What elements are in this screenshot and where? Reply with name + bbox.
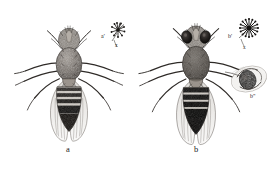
- callout-marker-b-prime: x: [243, 45, 246, 50]
- figure-caption-a: a: [66, 145, 70, 154]
- illustration-plate: [0, 0, 277, 169]
- figure-a-fly: [15, 26, 124, 141]
- figure-b-thorax-shade: [183, 46, 210, 81]
- figure-caption-b: b: [194, 145, 198, 154]
- callout-label-b-double-prime: b": [250, 93, 255, 99]
- callout-label-b-prime: b': [228, 33, 232, 39]
- callout-label-a-prime: a': [101, 33, 105, 39]
- callout-a-prime-rosette: [111, 22, 126, 38]
- callout-b-double-prime-inset: [228, 62, 269, 96]
- callout-marker-a-prime: x: [115, 43, 118, 48]
